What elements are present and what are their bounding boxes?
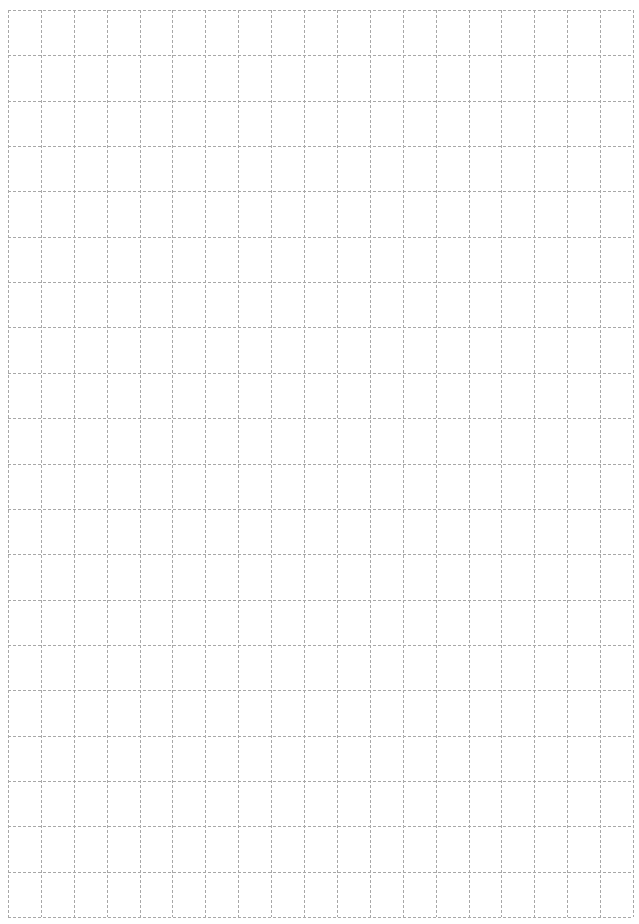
grid-paper (0, 0, 639, 924)
